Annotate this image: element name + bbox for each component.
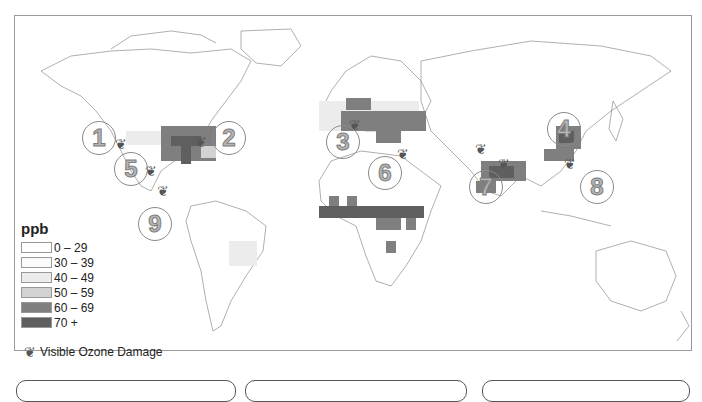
info-box-2: [245, 380, 467, 402]
maple-leaf-icon: ❦: [564, 156, 576, 172]
maple-leaf-icon: ❦: [24, 344, 36, 360]
legend-item: 0 – 29: [21, 240, 94, 255]
site-marker-9: 9: [138, 207, 172, 241]
legend-item: 40 – 49: [21, 270, 94, 285]
legend-item: 60 – 69: [21, 300, 94, 315]
legend-swatch: [21, 287, 52, 298]
maple-leaf-icon: ❦: [349, 117, 361, 133]
legend-item: 50 – 59: [21, 285, 94, 300]
maple-leaf-icon: ❦: [195, 134, 207, 150]
site-marker-8: 8: [580, 170, 614, 204]
legend-swatch: [21, 272, 52, 283]
legend-swatch: [21, 257, 52, 268]
site-marker-4: 4: [547, 112, 581, 146]
site-marker-2: 2: [212, 121, 246, 155]
legend-swatch: [21, 242, 52, 253]
legend-item: 30 – 39: [21, 255, 94, 270]
maple-leaf-icon: ❦: [498, 156, 510, 172]
site-marker-5: 5: [114, 152, 148, 186]
info-box-3: [482, 380, 690, 402]
maple-leaf-icon: ❦: [397, 146, 409, 162]
damage-legend: ❦ Visible Ozone Damage: [24, 344, 163, 360]
damage-legend-label: Visible Ozone Damage: [40, 345, 163, 359]
legend-title: ppb: [21, 220, 94, 237]
legend-swatch: [21, 317, 52, 328]
legend-item: 70 +: [21, 315, 94, 330]
maple-leaf-icon: ❦: [115, 136, 127, 152]
maple-leaf-icon: ❦: [157, 183, 169, 199]
legend-swatch: [21, 302, 52, 313]
info-box-1: [16, 380, 236, 402]
legend: ppb 0 – 29 30 – 39 40 – 49 50 – 59 60 – …: [21, 220, 94, 330]
site-marker-1: 1: [82, 121, 116, 155]
maple-leaf-icon: ❦: [475, 141, 487, 157]
site-marker-7: 7: [469, 170, 503, 204]
maple-leaf-icon: ❦: [145, 163, 157, 179]
